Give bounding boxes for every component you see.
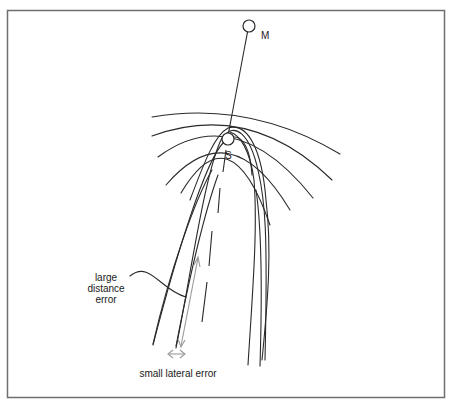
lateral-error-label: small lateral error xyxy=(139,368,217,379)
distance-error-label-line1: large xyxy=(95,272,118,283)
node-m-circle xyxy=(243,20,255,32)
node-m-label: M xyxy=(261,30,269,41)
distance-error-label-line3: error xyxy=(95,294,117,305)
node-s-label: S xyxy=(225,150,232,161)
diagram-frame xyxy=(8,11,445,398)
node-s-circle xyxy=(222,133,234,145)
distance-error-label-line2: distance xyxy=(87,283,125,294)
diagram-canvas: M S large distance error small lateral e… xyxy=(0,0,455,407)
